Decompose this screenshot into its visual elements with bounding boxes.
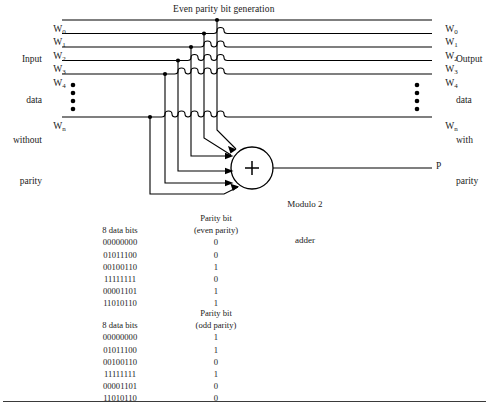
even-parity-header-parity-line1: Parity bit xyxy=(168,212,264,224)
even-parity-value-3: 0 xyxy=(168,273,264,285)
odd-parity-header-parity-line1: Parity bit xyxy=(168,307,264,319)
even-parity-table: Parity bit 8 data bits (even parity) 000… xyxy=(72,212,264,310)
odd-parity-header-spacer xyxy=(72,307,168,319)
even-parity-value-2: 1 xyxy=(168,261,264,273)
even-parity-value-1: 0 xyxy=(168,249,264,261)
output-caption-line-2: data xyxy=(456,94,489,108)
table-row: 01011100 0 xyxy=(72,249,264,261)
odd-parity-value-0: 1 xyxy=(168,331,264,343)
odd-parity-table-header-top: Parity bit xyxy=(72,307,264,319)
even-parity-value-4: 1 xyxy=(168,285,264,297)
parity-generator-figure: Even parity bit generation xyxy=(0,0,489,409)
odd-parity-header-parity-line2: (odd parity) xyxy=(168,319,264,331)
input-label-wn: Wn xyxy=(44,110,66,144)
even-parity-table-grid: Parity bit 8 data bits (even parity) 000… xyxy=(72,212,264,310)
odd-parity-bits-4: 00001101 xyxy=(72,380,168,392)
odd-parity-value-1: 1 xyxy=(168,344,264,356)
table-row: 11111111 0 xyxy=(72,273,264,285)
output-label-w4: W4 xyxy=(436,67,458,101)
input-label-w4-base: W xyxy=(53,78,62,88)
modulo2-adder-caption-line-2: adder xyxy=(272,234,338,246)
odd-parity-table-header-bottom: 8 data bits (odd parity) xyxy=(72,319,264,331)
input-caption: Input data without parity xyxy=(0,26,42,215)
modulo2-adder-caption-line-1: Modulo 2 xyxy=(272,198,338,210)
even-parity-header-spacer xyxy=(72,212,168,224)
output-label-wn-base: W xyxy=(445,121,454,131)
input-caption-line-3: without xyxy=(0,134,42,148)
page-bottom-rule xyxy=(3,401,486,402)
even-parity-table-header-top: Parity bit xyxy=(72,212,264,224)
odd-parity-bits-0: 00000000 xyxy=(72,331,168,343)
output-label-w4-base: W xyxy=(445,78,454,88)
table-row: 00000000 0 xyxy=(72,236,264,248)
odd-parity-bits-5: 11010110 xyxy=(72,392,168,404)
odd-parity-value-2: 0 xyxy=(168,356,264,368)
even-parity-bits-4: 00001101 xyxy=(72,285,168,297)
input-caption-line-2: data xyxy=(0,94,42,108)
input-label-w4-sub: 4 xyxy=(62,82,66,90)
parity-output-label: P xyxy=(436,161,441,172)
input-caption-line-4: parity xyxy=(0,175,42,189)
table-row: 00001101 1 xyxy=(72,285,264,297)
right-bus-ellipsis xyxy=(415,83,420,112)
even-parity-bits-3: 11111111 xyxy=(72,273,168,285)
input-caption-line-1: Input xyxy=(0,53,42,67)
table-row: 00001101 0 xyxy=(72,380,264,392)
even-parity-value-0: 0 xyxy=(168,236,264,248)
even-parity-bits-0: 00000000 xyxy=(72,236,168,248)
table-row: 00100110 0 xyxy=(72,356,264,368)
odd-parity-table-grid: Parity bit 8 data bits (odd parity) 0000… xyxy=(72,307,264,405)
output-caption-line-1: Output xyxy=(456,53,489,67)
table-row: 11010110 0 xyxy=(72,392,264,404)
odd-parity-header-bits: 8 data bits xyxy=(72,319,168,331)
odd-parity-table: Parity bit 8 data bits (odd parity) 0000… xyxy=(72,307,264,405)
output-caption: Output data with parity xyxy=(456,26,489,215)
output-label-wn: Wn xyxy=(436,110,458,144)
table-row: 11111111 1 xyxy=(72,368,264,380)
modulo2-adder-caption: Modulo 2 adder xyxy=(272,174,338,270)
odd-parity-table-body: 00000000 1 01011100 1 00100110 0 1111111… xyxy=(72,331,264,404)
table-row: 00000000 1 xyxy=(72,331,264,343)
odd-parity-value-5: 0 xyxy=(168,392,264,404)
even-parity-header-parity-line2: (even parity) xyxy=(168,224,264,236)
odd-parity-bits-3: 11111111 xyxy=(72,368,168,380)
output-caption-line-3: with xyxy=(456,134,489,148)
input-label-wn-sub: n xyxy=(62,125,66,133)
output-caption-line-4: parity xyxy=(456,175,489,189)
input-label-wn-base: W xyxy=(53,121,62,131)
odd-parity-value-4: 0 xyxy=(168,380,264,392)
table-row: 01011100 1 xyxy=(72,344,264,356)
odd-parity-bits-2: 00100110 xyxy=(72,356,168,368)
left-bus-ellipsis xyxy=(71,83,76,112)
even-parity-bits-2: 00100110 xyxy=(72,261,168,273)
even-parity-table-header-bottom: 8 data bits (even parity) xyxy=(72,224,264,236)
even-parity-header-bits: 8 data bits xyxy=(72,224,168,236)
odd-parity-value-3: 1 xyxy=(168,368,264,380)
table-row: 00100110 1 xyxy=(72,261,264,273)
even-parity-table-body: 00000000 0 01011100 0 00100110 1 1111111… xyxy=(72,236,264,309)
even-parity-bits-1: 01011100 xyxy=(72,249,168,261)
input-label-w4: W4 xyxy=(44,67,66,101)
odd-parity-bits-1: 01011100 xyxy=(72,344,168,356)
